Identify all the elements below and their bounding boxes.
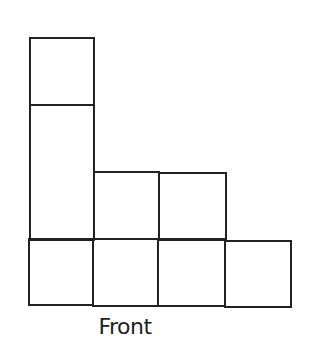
cell-col1-top xyxy=(29,37,95,106)
front-view-diagram: Front xyxy=(0,0,309,355)
cell-col3-bottom xyxy=(157,239,226,307)
cell-col4-bottom xyxy=(224,240,292,308)
cell-col1-bottom xyxy=(28,238,94,306)
cell-col2-middle xyxy=(93,171,160,240)
cell-col3-middle xyxy=(158,172,227,240)
cell-col1-middle xyxy=(29,104,95,241)
view-label: Front xyxy=(94,314,156,339)
cell-col2-bottom xyxy=(92,238,159,307)
